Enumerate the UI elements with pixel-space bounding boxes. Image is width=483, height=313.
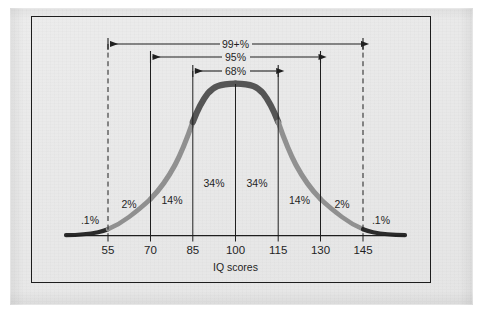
bell-curve-chart: 55 70 85 100 115 130 145 IQ scores .1% 2… bbox=[0, 0, 483, 313]
segment-label-left-2: 2% bbox=[121, 198, 136, 210]
segment-label-right-2: 2% bbox=[334, 198, 349, 210]
span-95-label: 95% bbox=[225, 51, 246, 63]
x-tick-label-70: 70 bbox=[144, 244, 157, 256]
x-axis-title: IQ scores bbox=[213, 261, 258, 273]
curve-segment-85-100 bbox=[193, 84, 236, 122]
curve-segment-right-tail bbox=[363, 229, 405, 235]
segment-label-left-34: 34% bbox=[203, 177, 224, 189]
span-99plus-label: 99+% bbox=[222, 38, 249, 50]
segment-label-left-point1: .1% bbox=[81, 214, 99, 226]
curve-segment-115-130 bbox=[278, 122, 320, 199]
span-annotation-95: 95% bbox=[151, 51, 321, 64]
span-annotation-99plus: 99+% bbox=[108, 38, 363, 51]
segment-label-right-14: 14% bbox=[289, 194, 310, 206]
x-tick-label-130: 130 bbox=[311, 244, 330, 256]
curve-segment-left-tail bbox=[66, 229, 108, 235]
figure-root: 55 70 85 100 115 130 145 IQ scores .1% 2… bbox=[0, 0, 483, 313]
x-tick-label-115: 115 bbox=[269, 244, 287, 256]
x-tick-label-100: 100 bbox=[226, 244, 245, 256]
curve-segment-100-115 bbox=[236, 84, 279, 122]
span-annotation-68: 68% bbox=[193, 65, 278, 78]
span-68-label: 68% bbox=[225, 65, 246, 77]
curve-segment-70-85 bbox=[151, 122, 193, 199]
segment-label-left-14: 14% bbox=[161, 194, 182, 206]
segment-label-right-point1: .1% bbox=[372, 214, 390, 226]
x-tick-label-85: 85 bbox=[186, 244, 199, 256]
x-tick-label-55: 55 bbox=[102, 244, 115, 256]
x-axis-ticks bbox=[108, 236, 363, 242]
x-tick-label-145: 145 bbox=[353, 244, 372, 256]
x-axis-tick-labels: 55 70 85 100 115 130 145 bbox=[102, 244, 373, 256]
segment-label-right-34: 34% bbox=[246, 177, 267, 189]
